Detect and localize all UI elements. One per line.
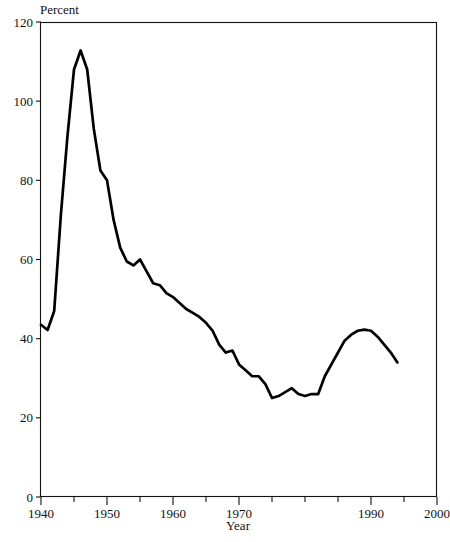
y-axis-tick-group: 020406080100120 [14,15,42,505]
x-axis-tick-label: 1990 [358,506,384,521]
y-axis-tick-label: 60 [20,252,33,267]
y-axis-tick-label: 20 [20,410,33,425]
x-axis-tick-label: 1940 [28,506,54,521]
y-axis-tick-label: 40 [20,331,33,346]
chart-container: Percent 020406080100120 1940195019601970… [0,0,450,542]
x-axis-title-label: Year [226,518,251,533]
x-axis-tick-label: 2000 [424,506,450,521]
chart-canvas: Percent 020406080100120 1940195019601970… [0,0,450,542]
y-axis-tick-label: 0 [27,490,34,505]
plot-area-frame [41,23,437,497]
x-axis-tick-label: 1950 [94,506,120,521]
y-axis-title: Percent [40,2,79,17]
y-axis-tick-label: 80 [20,173,33,188]
x-axis-tick-label: 1960 [160,506,186,521]
y-axis-tick-label: 100 [14,94,34,109]
y-axis-title-label: Percent [40,2,79,17]
y-axis-tick-label: 120 [14,15,34,30]
data-series-line [41,51,397,399]
